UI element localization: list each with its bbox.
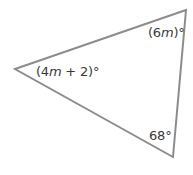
angle-top-var: m [161, 25, 173, 40]
angle-label-left: (4m + 2)° [36, 65, 99, 78]
angle-left-pre: (4 [36, 64, 49, 79]
angle-label-top-right: (6m)° [148, 26, 185, 39]
angle-label-bottom: 68° [149, 129, 171, 142]
angle-bottom-value: 68° [149, 128, 171, 143]
angle-left-var: m [49, 64, 61, 79]
angle-top-pre: (6 [148, 25, 161, 40]
angle-left-post: + 2)° [61, 64, 99, 79]
angle-top-post: )° [173, 25, 184, 40]
